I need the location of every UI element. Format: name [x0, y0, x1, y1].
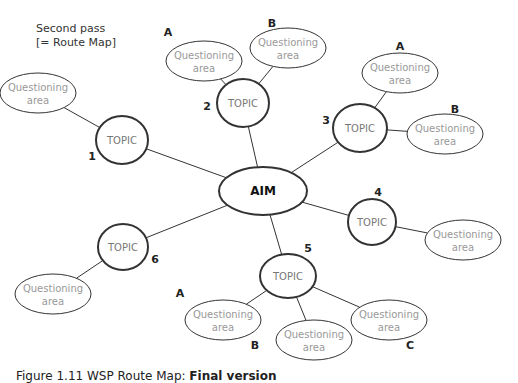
topic-label: TOPIC — [344, 123, 375, 134]
questioning-area-label-2: area — [378, 322, 400, 333]
aim-node: AIM — [219, 167, 307, 215]
questioning-area-label-2: area — [434, 136, 456, 147]
area-letter: B — [268, 17, 276, 30]
questioning-area-ellipse — [250, 28, 326, 68]
nodes: AIMTOPIC1QuestioningareaTOPIC2Questionin… — [0, 17, 501, 360]
topic-label: TOPIC — [106, 135, 137, 146]
figure-caption: Figure 1.11 WSP Route Map: Final version — [16, 369, 277, 383]
questioning-area-node: Questioningarea — [425, 220, 501, 260]
topic-label: TOPIC — [227, 98, 258, 109]
questioning-area-label-2: area — [303, 342, 325, 353]
questioning-area-node: QuestioningareaB — [251, 320, 352, 360]
connector-line — [297, 297, 307, 320]
title-line-1: Second pass — [36, 22, 116, 36]
questioning-area-label-2: area — [277, 50, 299, 61]
topic-label: TOPIC — [107, 242, 138, 253]
connector-line — [375, 92, 387, 108]
area-letter: B — [251, 339, 259, 352]
questioning-area-ellipse — [351, 300, 427, 340]
questioning-area-ellipse — [0, 73, 76, 113]
topic-number: 5 — [304, 242, 312, 255]
connector-line — [259, 66, 273, 83]
connector-line — [312, 287, 359, 308]
topic-node-4: TOPIC4 — [348, 186, 396, 245]
connector-line — [76, 261, 102, 279]
questioning-area-label-2: area — [27, 95, 49, 106]
questioning-area-ellipse — [425, 220, 501, 260]
questioning-area-node: QuestioningareaA — [164, 26, 242, 81]
questioning-area-label-1: Questioning — [193, 309, 253, 320]
topic-label: TOPIC — [356, 217, 387, 228]
area-letter: A — [164, 26, 173, 39]
questioning-area-ellipse — [276, 320, 352, 360]
questioning-area-node: QuestioningareaB — [407, 103, 483, 154]
area-letter: C — [406, 339, 414, 352]
connector-line — [291, 142, 338, 172]
connector-line — [270, 215, 282, 255]
title-line-2: [= Route Map] — [36, 36, 116, 50]
questioning-area-ellipse — [166, 41, 242, 81]
questioning-area-node: Questioningarea — [15, 274, 91, 314]
questioning-area-label-1: Questioning — [359, 309, 419, 320]
questioning-area-label-1: Questioning — [433, 229, 493, 240]
topic-node-5: TOPIC5 — [260, 242, 316, 298]
aim-label: AIM — [250, 184, 276, 198]
caption-bold: Final version — [189, 369, 276, 383]
topic-number: 6 — [151, 253, 159, 266]
questioning-area-node: Questioningarea — [0, 73, 76, 113]
connector-line — [248, 126, 257, 167]
questioning-area-node: QuestioningareaA — [362, 40, 438, 93]
questioning-area-node: QuestioningareaB — [250, 17, 326, 68]
questioning-area-label-2: area — [389, 75, 411, 86]
connector-line — [146, 149, 226, 178]
topic-label: TOPIC — [272, 271, 303, 282]
topic-node-3: TOPIC3 — [322, 104, 387, 152]
questioning-area-ellipse — [185, 300, 261, 340]
area-letter: A — [176, 287, 185, 300]
questioning-area-label-1: Questioning — [284, 329, 344, 340]
connector-line — [302, 202, 349, 215]
connector-line — [396, 227, 428, 233]
questioning-area-label-1: Questioning — [23, 283, 83, 294]
topic-number: 1 — [88, 150, 96, 163]
questioning-area-label-1: Questioning — [8, 82, 68, 93]
questioning-area-node: QuestioningareaA — [176, 287, 261, 340]
questioning-area-ellipse — [15, 274, 91, 314]
questioning-area-label-1: Questioning — [174, 50, 234, 61]
questioning-area-label-1: Questioning — [370, 62, 430, 73]
topic-number: 2 — [203, 100, 211, 113]
topic-number: 4 — [374, 186, 382, 199]
topic-number: 3 — [322, 114, 330, 127]
questioning-area-label-2: area — [193, 63, 215, 74]
questioning-area-label-1: Questioning — [258, 37, 318, 48]
questioning-area-label-2: area — [212, 322, 234, 333]
questioning-area-label-2: area — [42, 296, 64, 307]
topic-node-6: TOPIC6 — [98, 224, 159, 270]
connector-line — [221, 79, 226, 85]
area-letter: B — [451, 103, 459, 116]
questioning-area-label-1: Questioning — [415, 123, 475, 134]
topic-node-1: TOPIC1 — [88, 116, 148, 164]
caption-prefix: Figure 1.11 WSP Route Map: — [16, 369, 189, 383]
connector-line — [387, 130, 407, 131]
area-letter: A — [396, 40, 405, 53]
connector-line — [146, 205, 228, 238]
topic-node-2: TOPIC2 — [203, 79, 269, 127]
connector-line — [64, 108, 100, 128]
questioning-area-ellipse — [407, 114, 483, 154]
questioning-area-ellipse — [362, 53, 438, 93]
questioning-area-node: QuestioningareaC — [351, 300, 427, 352]
connector-line — [246, 290, 266, 304]
diagram-title: Second pass [= Route Map] — [36, 22, 116, 50]
questioning-area-label-2: area — [452, 242, 474, 253]
